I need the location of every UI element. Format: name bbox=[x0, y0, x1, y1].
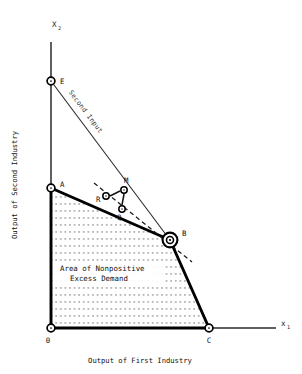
area-label-line2: Excess Demand bbox=[70, 274, 128, 283]
area-annotation-group: Area of Nonpositive Excess Demand bbox=[55, 262, 163, 283]
point-A[interactable] bbox=[47, 184, 55, 192]
y-axis-caption-group: Output of Second Industry bbox=[10, 130, 19, 239]
label-point-M: M bbox=[124, 176, 129, 185]
label-point-E: E bbox=[60, 77, 64, 86]
point-Q[interactable] bbox=[119, 206, 125, 212]
y-axis-caption: Output of Second Industry bbox=[10, 130, 19, 239]
label-point-Q: Q bbox=[117, 213, 122, 222]
point-O[interactable] bbox=[47, 324, 55, 332]
production-possibility-diagram: E A R M Q B C 0 X 2 x 1 Output of Second… bbox=[0, 0, 302, 374]
diagram-canvas: E A R M Q B C 0 X 2 x 1 Output of Second… bbox=[0, 0, 302, 374]
x-axis-caption: Output of First Industry bbox=[88, 356, 193, 365]
x-axis-name: x bbox=[281, 319, 286, 328]
point-C[interactable] bbox=[205, 324, 213, 332]
connector-m-q bbox=[122, 194, 124, 205]
point-B[interactable] bbox=[163, 233, 178, 248]
y-axis-name: X bbox=[52, 20, 57, 29]
label-point-R: R bbox=[96, 195, 101, 204]
area-label-line1: Area of Nonpositive bbox=[60, 264, 145, 273]
point-R[interactable] bbox=[103, 193, 109, 199]
x-axis-name-subscript: 1 bbox=[287, 324, 290, 330]
label-point-B: B bbox=[182, 229, 187, 238]
point-E[interactable] bbox=[47, 77, 55, 85]
point-M[interactable] bbox=[121, 187, 127, 193]
nonpositive-excess-demand-region bbox=[51, 188, 209, 328]
y-axis-name-subscript: 2 bbox=[58, 25, 61, 31]
label-point-A: A bbox=[60, 180, 65, 189]
label-point-C: C bbox=[207, 336, 211, 345]
label-point-origin: 0 bbox=[46, 336, 50, 345]
connector-r-m bbox=[110, 191, 120, 196]
x-axis-caption-group: Output of First Industry bbox=[88, 356, 193, 365]
